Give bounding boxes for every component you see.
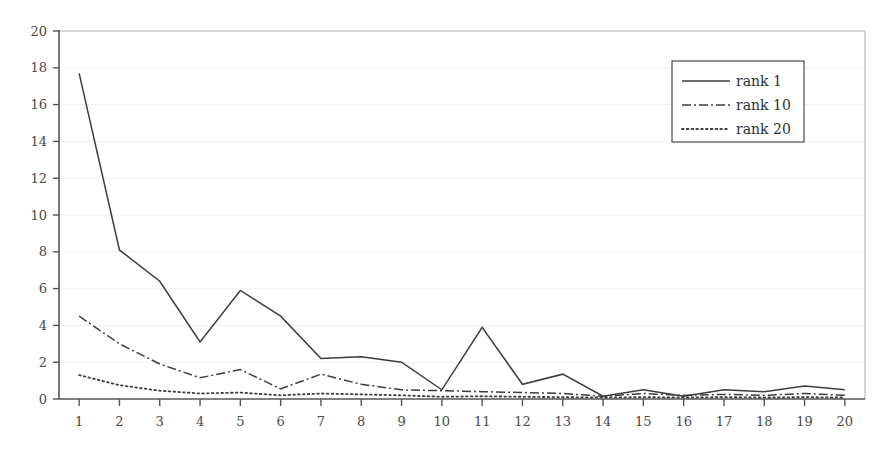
y-axis-tick-label: 6 [39, 281, 47, 296]
y-axis-tick-label: 16 [30, 97, 47, 112]
y-axis-tick-label: 20 [30, 24, 47, 39]
x-axis-tick-label: 17 [716, 414, 733, 429]
y-axis-tick-label: 4 [39, 318, 47, 333]
x-axis-tick-label: 11 [474, 414, 491, 429]
y-axis-tick-label: 12 [30, 171, 47, 186]
x-axis-tick-label: 2 [115, 414, 123, 429]
line-chart: 0246810121416182012345678910111213141516… [0, 0, 892, 453]
y-axis-tick-label: 14 [30, 134, 47, 149]
y-axis-tick-label: 10 [30, 208, 47, 223]
legend-label-rank-20: rank 20 [736, 121, 791, 137]
x-axis-tick-label: 8 [357, 414, 365, 429]
x-axis-tick-label: 12 [514, 414, 531, 429]
x-axis-tick-label: 18 [756, 414, 773, 429]
x-axis-tick-label: 19 [796, 414, 813, 429]
x-axis-tick-label: 20 [837, 414, 854, 429]
x-axis-tick-label: 16 [675, 414, 692, 429]
y-axis-tick-label: 0 [39, 392, 47, 407]
chart-container: 0246810121416182012345678910111213141516… [0, 0, 892, 453]
x-axis-tick-label: 1 [75, 414, 83, 429]
y-axis-tick-label: 8 [39, 244, 47, 259]
chart-legend: rank 1rank 10rank 20 [672, 61, 804, 142]
x-axis-tick-label: 14 [595, 414, 612, 429]
x-axis-tick-label: 6 [277, 414, 285, 429]
y-axis-tick-label: 18 [30, 60, 47, 75]
x-axis-tick-label: 13 [554, 414, 571, 429]
y-axis-tick-label: 2 [39, 355, 47, 370]
x-axis-tick-label: 7 [317, 414, 325, 429]
x-axis-tick-label: 15 [635, 414, 652, 429]
legend-label-rank-10: rank 10 [736, 97, 791, 113]
x-axis-tick-label: 3 [156, 414, 164, 429]
x-axis-tick-label: 9 [397, 414, 405, 429]
x-axis-tick-label: 4 [196, 414, 204, 429]
x-axis-tick-label: 5 [236, 414, 244, 429]
x-axis-tick-label: 10 [434, 414, 451, 429]
legend-label-rank-1: rank 1 [736, 73, 782, 89]
